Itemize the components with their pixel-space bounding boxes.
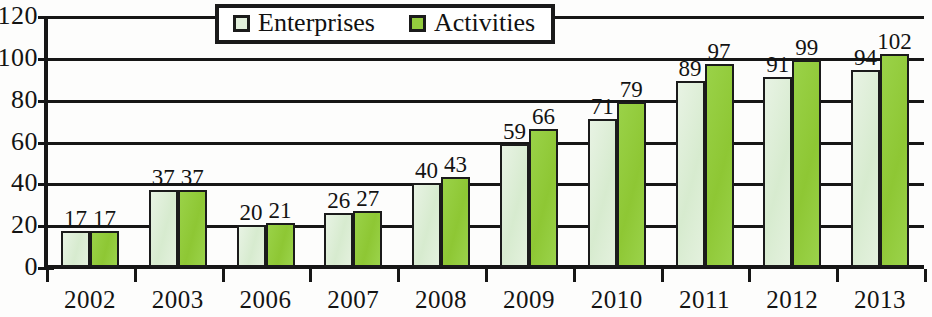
x-axis-tick-mark	[134, 269, 137, 282]
bar-activities-2009: 66	[529, 129, 558, 267]
legend-item-enterprises[interactable]: Enterprises	[233, 10, 375, 36]
bar-value-label: 20	[240, 201, 263, 224]
x-axis-category-label: 2009	[503, 286, 555, 314]
bar-activities-2012: 99	[792, 60, 821, 267]
x-axis-category-label: 2010	[591, 286, 643, 314]
y-axis-tick-label: 40	[11, 168, 38, 198]
y-axis-tick-mark	[38, 16, 54, 19]
bar-value-label: 66	[532, 105, 555, 128]
y-axis-tick-mark	[38, 58, 54, 61]
y-axis-tick-label: 100	[0, 43, 38, 73]
y-axis-tick-mark-right	[910, 225, 924, 228]
bar-enterprises-2007: 26	[324, 213, 353, 267]
bar-enterprises-2010: 71	[588, 119, 617, 268]
x-axis-category-label: 2006	[240, 286, 292, 314]
x-axis-tick-mark	[309, 269, 312, 282]
bar-activities-2013: 102	[880, 54, 909, 267]
bar-value-label: 17	[64, 207, 87, 230]
bar-enterprises-2008: 40	[412, 183, 441, 267]
bar-value-label: 37	[152, 166, 175, 189]
bar-enterprises-2003: 37	[149, 190, 178, 267]
bar-value-label: 94	[854, 46, 877, 69]
x-axis-tick-mark	[573, 269, 576, 282]
bar-value-label: 79	[620, 78, 643, 101]
bar-value-label: 97	[708, 40, 731, 63]
chart-legend: EnterprisesActivities	[215, 4, 555, 44]
bar-value-label: 21	[269, 199, 292, 222]
bar-value-label: 102	[877, 30, 912, 53]
y-axis-tick-label: 80	[11, 85, 38, 115]
x-axis-tick-mark	[485, 269, 488, 282]
bar-chart: 020406080100120 171737372021262740435966…	[0, 0, 932, 317]
x-axis-tick-mark	[397, 269, 400, 282]
legend-label: Activities	[434, 10, 535, 36]
plot-area: 1717373720212627404359667179899791999410…	[46, 16, 924, 267]
y-axis-tick-mark	[38, 100, 54, 103]
enterprises-swatch-icon	[233, 15, 250, 32]
y-axis-tick-label: 20	[11, 210, 38, 240]
bar-value-label: 26	[327, 189, 350, 212]
x-axis-category-label: 2011	[679, 286, 730, 314]
bar-activities-2008: 43	[441, 177, 470, 267]
y-axis-tick-mark-right	[910, 58, 924, 61]
bar-enterprises-2006: 20	[237, 225, 266, 267]
legend-label: Enterprises	[258, 10, 375, 36]
bar-activities-2011: 97	[705, 64, 734, 267]
y-axis-tick-mark	[38, 225, 54, 228]
y-axis-tick-mark-right	[910, 142, 924, 145]
x-axis-tick-mark	[924, 269, 927, 282]
bar-activities-2002: 17	[90, 231, 119, 267]
x-axis-tick-mark	[46, 269, 49, 282]
y-axis-tick-mark	[38, 142, 54, 145]
bar-enterprises-2009: 59	[500, 144, 529, 267]
y-axis-tick-label: 0	[25, 252, 39, 282]
x-axis-category-label: 2003	[152, 286, 204, 314]
bar-enterprises-2013: 94	[851, 70, 880, 267]
bar-activities-2010: 79	[617, 102, 646, 267]
bar-enterprises-2002: 17	[61, 231, 90, 267]
bar-value-label: 91	[766, 53, 789, 76]
y-axis-tick-mark-right	[910, 16, 924, 19]
bar-value-label: 40	[415, 159, 438, 182]
bar-activities-2007: 27	[353, 211, 382, 267]
x-axis-tick-mark	[748, 269, 751, 282]
bar-value-label: 37	[181, 166, 204, 189]
x-axis-tick-mark	[661, 269, 664, 282]
bar-activities-2006: 21	[266, 223, 295, 267]
activities-swatch-icon	[409, 15, 426, 32]
bar-enterprises-2012: 91	[763, 77, 792, 267]
bar-value-label: 43	[444, 153, 467, 176]
y-axis-tick-label: 120	[0, 1, 38, 31]
y-axis-tick-label: 60	[11, 127, 38, 157]
bar-value-label: 17	[93, 207, 116, 230]
bar-activities-2003: 37	[178, 190, 207, 267]
x-axis-tick-mark	[222, 269, 225, 282]
bar-enterprises-2011: 89	[676, 81, 705, 267]
y-axis-tick-mark-right	[910, 183, 924, 186]
bar-value-label: 99	[795, 36, 818, 59]
y-axis-tick-mark-right	[910, 100, 924, 103]
x-axis-category-label: 2012	[766, 286, 818, 314]
bar-value-label: 71	[591, 95, 614, 118]
x-axis-category-label: 2013	[854, 286, 906, 314]
bar-value-label: 27	[356, 187, 379, 210]
bar-value-label: 59	[503, 120, 526, 143]
y-axis-tick-mark	[38, 183, 54, 186]
y-axis-labels: 020406080100120	[0, 0, 38, 317]
x-axis-tick-mark	[836, 269, 839, 282]
x-axis-category-label: 2002	[64, 286, 116, 314]
legend-item-activities[interactable]: Activities	[409, 10, 535, 36]
x-axis-category-label: 2007	[327, 286, 379, 314]
x-axis-category-label: 2008	[415, 286, 467, 314]
bar-value-label: 89	[679, 57, 702, 80]
